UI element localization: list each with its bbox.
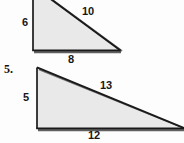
label-bottom-hypotenuse: 13 [100, 80, 112, 91]
triangle-bottom-group [36, 67, 184, 130]
label-bottom-horizontal-leg: 12 [88, 130, 100, 141]
problem-number-5: 5. [4, 63, 13, 75]
label-top-hypotenuse: 10 [82, 6, 94, 17]
figure-page: 6 10 8 5. 5 13 12 [0, 0, 184, 143]
label-bottom-vertical-leg: 5 [23, 92, 29, 103]
label-top-vertical-leg: 6 [22, 17, 28, 28]
triangle-top-shape [33, 0, 120, 50]
label-top-horizontal-leg: 8 [68, 54, 74, 65]
triangle-top-group [32, 0, 122, 52]
